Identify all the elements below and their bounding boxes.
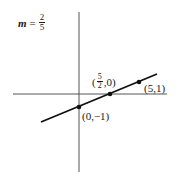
slope-equals: = (30, 17, 36, 29)
slope-denominator: 5 (40, 23, 45, 32)
point-label-y-intercept: (0,−1) (82, 110, 109, 122)
point-y-intercept (77, 105, 82, 110)
label-close: ,0) (104, 76, 116, 88)
slope-variable: m (18, 17, 27, 29)
slope-fraction: 2 5 (39, 13, 46, 32)
label-denominator: 2 (98, 82, 102, 90)
point-label-5-1: (5,1) (144, 82, 165, 94)
point-label-x-intercept: ( 5 2 ,0) (92, 73, 116, 90)
point-x-intercept (108, 92, 113, 97)
label-open: ( (92, 76, 96, 88)
slope-label: m = 2 5 (18, 13, 45, 32)
label-fraction: 5 2 (97, 73, 103, 90)
point-5-1 (137, 80, 142, 85)
